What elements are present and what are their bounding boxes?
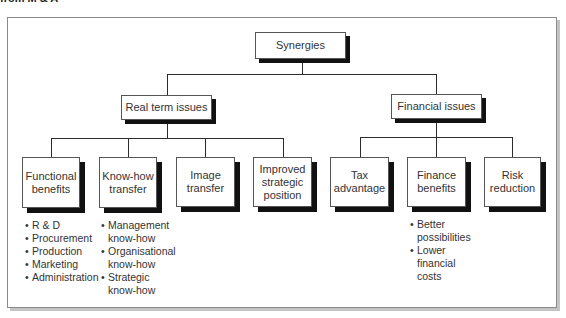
- node-image-transfer: Image transfer: [176, 157, 235, 207]
- finance-benefits-list: •Better possibilities •Lower financial c…: [410, 218, 471, 283]
- node-tax-advantage: Tax advantage: [330, 157, 389, 207]
- connector: [436, 119, 437, 157]
- node-real-term-issues: Real term issues: [121, 95, 212, 120]
- list-item: •Management know-how: [101, 219, 176, 245]
- bullet-icon: •: [410, 244, 414, 257]
- node-risk-reduction: Risk reduction: [484, 157, 541, 207]
- connector: [51, 138, 52, 157]
- bullet-icon: •: [25, 258, 29, 271]
- node-functional-benefits: Functional benefits: [22, 157, 80, 208]
- connector: [167, 74, 437, 75]
- bullet-icon: •: [25, 245, 29, 258]
- list-item: •Strategic know-how: [101, 271, 176, 297]
- list-item: •Administration: [25, 271, 99, 284]
- bullet-icon: •: [101, 271, 105, 284]
- node-synergies: Synergies: [255, 32, 346, 59]
- connector: [360, 137, 361, 157]
- node-financial-issues: Financial issues: [391, 94, 482, 119]
- bullet-icon: •: [25, 271, 29, 284]
- node-label: Improved strategic position: [256, 163, 309, 202]
- connector: [167, 120, 168, 138]
- list-item: •R & D: [25, 219, 99, 232]
- list-item: •Organisational know-how: [101, 245, 176, 271]
- node-label: Synergies: [276, 39, 325, 52]
- node-label: Tax advantage: [333, 169, 386, 195]
- connector: [360, 137, 513, 138]
- list-item: •Lower financial costs: [410, 244, 471, 283]
- list-item: •Marketing: [25, 258, 99, 271]
- list-item: •Production: [25, 245, 99, 258]
- connector: [167, 74, 168, 95]
- connector: [205, 138, 206, 157]
- connector: [283, 138, 284, 157]
- node-label: Functional benefits: [25, 170, 77, 196]
- connector: [51, 138, 284, 139]
- list-item: •Better possibilities: [410, 218, 471, 244]
- node-finance-benefits: Finance benefits: [407, 157, 466, 207]
- list-item: •Procurement: [25, 232, 99, 245]
- bullet-icon: •: [25, 219, 29, 232]
- bullet-icon: •: [101, 245, 105, 258]
- node-label: Image transfer: [179, 169, 232, 195]
- connector: [436, 74, 437, 94]
- node-label: Know-how transfer: [102, 170, 154, 196]
- connector: [512, 137, 513, 157]
- figure-caption: from M & A: [0, 0, 58, 4]
- node-label: Risk reduction: [487, 169, 538, 195]
- bullet-icon: •: [410, 218, 414, 231]
- node-improved-strategic-position: Improved strategic position: [253, 157, 312, 207]
- functional-benefits-list: •R & D •Procurement •Production •Marketi…: [25, 219, 99, 284]
- know-how-transfer-list: •Management know-how •Organisational kno…: [101, 219, 176, 297]
- connector: [128, 138, 129, 157]
- node-label: Financial issues: [397, 100, 475, 113]
- node-know-how-transfer: Know-how transfer: [99, 157, 157, 208]
- bullet-icon: •: [101, 219, 105, 232]
- bullet-icon: •: [25, 232, 29, 245]
- node-label: Real term issues: [126, 101, 208, 114]
- connector: [302, 60, 303, 75]
- node-label: Finance benefits: [410, 169, 463, 195]
